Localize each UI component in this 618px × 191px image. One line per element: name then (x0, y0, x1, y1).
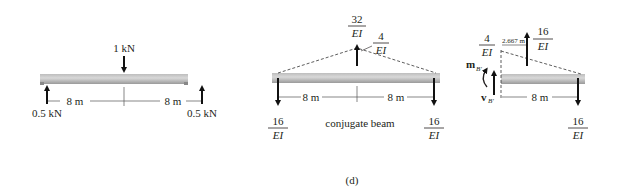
span-left-label: 8 m (67, 95, 84, 107)
moment-subscript: B′ (476, 65, 482, 73)
shear-subscript: B′ (488, 97, 494, 105)
point-load-label: 1 kN (113, 42, 135, 54)
peak-intensity-den: EI (375, 44, 388, 56)
left-reaction-den: EI (272, 129, 285, 141)
span-right-label: 8 m (165, 95, 182, 107)
span-right-label: 8 m (388, 91, 405, 103)
right-support-notch (184, 82, 188, 85)
resultant-num: 16 (538, 25, 550, 37)
left-reaction-label: 0.5 kN (32, 107, 62, 119)
moment-curved-arrow (483, 70, 487, 87)
right-reaction-num: 16 (429, 115, 441, 127)
resultant-num: 32 (352, 13, 363, 25)
left-support-notch (40, 82, 44, 85)
span-label: 8 m (532, 91, 549, 103)
moment-label: m (466, 58, 475, 70)
right-reaction-label: 0.5 kN (187, 107, 217, 119)
peak-intensity-num: 4 (378, 30, 384, 42)
conjugate-beam (272, 73, 440, 83)
figure-label: (d) (346, 174, 359, 187)
left-intensity-den: EI (481, 46, 494, 58)
span-left-label: 8 m (303, 91, 320, 103)
conjugate-beam-diagram: 32 EI 4 EI 16 EI 16 EI 8 m 8 m conjugate… (268, 13, 444, 141)
offset-label: 2.667 m (502, 37, 526, 45)
segment-free-body-diagram: 4 EI 2.667 m 16 EI m B′ v B′ 16 EI 8 m (466, 25, 588, 141)
resultant-den: EI (537, 40, 550, 52)
shear-label: v (481, 91, 487, 103)
right-reaction-den: EI (428, 129, 441, 141)
left-reaction-num: 16 (273, 115, 285, 127)
triangular-load-outline (501, 51, 581, 74)
right-reaction-den: EI (572, 129, 585, 141)
resultant-den: EI (351, 27, 364, 39)
left-intensity-num: 4 (484, 32, 490, 44)
beam-figure: 1 kN 0.5 kN 0.5 kN 8 m 8 m 32 EI 4 EI 16 (0, 0, 618, 191)
real-beam-diagram: 1 kN 0.5 kN 0.5 kN 8 m 8 m (32, 42, 217, 119)
real-beam (40, 74, 188, 84)
beam-segment (501, 74, 585, 84)
conjugate-beam-caption: conjugate beam (325, 117, 395, 129)
right-reaction-num: 16 (573, 115, 585, 127)
